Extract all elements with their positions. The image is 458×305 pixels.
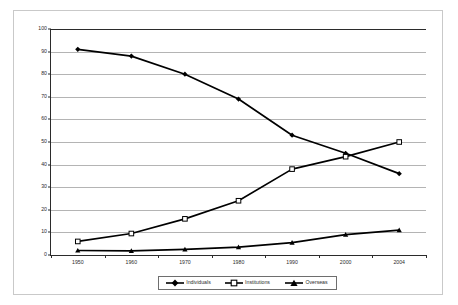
legend-label-overseas: Overseas: [305, 280, 327, 285]
y-tick-label: 20: [41, 207, 47, 212]
chart-legend: Individuals Institutions Overseas: [158, 276, 337, 290]
data-point: [129, 231, 134, 236]
data-point: [182, 72, 187, 77]
series-individuals: [75, 47, 402, 177]
y-tick-label: 90: [41, 49, 47, 54]
data-point: [183, 217, 188, 222]
x-tick-label: 2004: [393, 260, 405, 265]
legend-entry-overseas: Overseas: [277, 279, 336, 287]
data-point: [75, 47, 80, 52]
data-point: [343, 154, 348, 159]
series-overseas: [75, 228, 402, 253]
series-institutions: [75, 140, 401, 244]
data-point: [129, 54, 134, 59]
y-tick-label: 100: [38, 26, 47, 31]
x-tick-label: 2000: [340, 260, 352, 265]
legend-entry-institutions: Institutions: [218, 279, 277, 287]
x-tick-label: 1960: [126, 260, 138, 265]
legend-entry-individuals: Individuals: [159, 279, 218, 287]
legend-marker-filled-triangle-icon: [285, 279, 303, 287]
x-tick-label: 1990: [286, 260, 298, 265]
data-point: [75, 239, 80, 244]
x-tick-mark: [426, 255, 427, 258]
y-tick-label: 50: [41, 139, 47, 144]
y-tick-label: 40: [41, 162, 47, 167]
x-tick-mark: [158, 255, 159, 258]
legend-label-institutions: Institutions: [245, 280, 270, 285]
chart-frame: 0102030405060708090100 19501960197019801…: [13, 10, 443, 295]
y-tick-label: 10: [41, 230, 47, 235]
y-tick-label: 0: [44, 252, 47, 257]
data-point: [290, 167, 295, 172]
x-tick-mark: [319, 255, 320, 258]
x-tick-mark: [372, 255, 373, 258]
series-line: [78, 142, 399, 241]
series-plot: [51, 29, 426, 255]
legend-label-individuals: Individuals: [186, 280, 211, 285]
data-point: [397, 140, 402, 145]
y-tick-label: 30: [41, 185, 47, 190]
y-tick-label: 70: [41, 94, 47, 99]
x-tick-mark: [51, 255, 52, 258]
x-tick-label: 1980: [233, 260, 245, 265]
data-point: [236, 198, 241, 203]
legend-marker-filled-diamond-icon: [166, 279, 184, 287]
x-tick-mark: [212, 255, 213, 258]
y-tick-label: 60: [41, 117, 47, 122]
x-tick-mark: [105, 255, 106, 258]
y-tick-label: 80: [41, 72, 47, 77]
data-point: [397, 171, 402, 176]
x-tick-label: 1970: [179, 260, 191, 265]
x-tick-label: 1950: [72, 260, 84, 265]
legend-marker-open-square-icon: [225, 279, 243, 287]
plot-area: 0102030405060708090100 19501960197019801…: [50, 29, 426, 256]
x-tick-mark: [265, 255, 266, 258]
